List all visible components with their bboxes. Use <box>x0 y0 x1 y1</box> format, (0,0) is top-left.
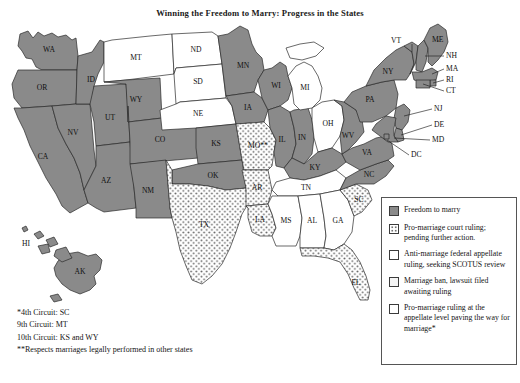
state-label-IL: IL <box>278 135 286 144</box>
legend-item-marriage-ban-lawsuit: Marriage ban, lawsuit filed awaiting rul… <box>389 276 510 296</box>
state-label-RI: RI <box>446 75 454 84</box>
state-label-DE: DE <box>434 120 444 129</box>
state-ME <box>424 24 448 66</box>
state-label-NH: NH <box>446 51 457 60</box>
legend-label: Pro-marriage ruling at the appellate lev… <box>404 303 510 334</box>
legend-swatch-gray-icon <box>389 206 399 216</box>
footnote-line-4: **Respects marriages legally performed i… <box>17 344 317 356</box>
state-label-DC: DC <box>411 150 422 159</box>
state-label-HI: HI <box>22 239 30 248</box>
state-FL <box>300 244 370 300</box>
state-label-NV: NV <box>68 128 79 137</box>
state-label-NE: NE <box>193 109 203 118</box>
state-DC <box>384 134 389 139</box>
legend-item-pro-marriage-pending: Pro-marriage court ruling; pending furth… <box>389 223 510 243</box>
state-label-WY: WY <box>130 95 143 104</box>
map-legend: Freedom to marry Pro-marriage court ruli… <box>381 197 517 365</box>
state-AK-island <box>38 244 50 254</box>
legend-swatch-white-icon <box>389 304 399 314</box>
state-label-KS: KS <box>211 139 221 148</box>
state-NJ <box>394 104 410 130</box>
state-label-CO: CO <box>155 135 166 144</box>
legend-item-anti-marriage-scotus: Anti-marriage federal appellate ruling, … <box>389 249 510 269</box>
state-label-VT: VT <box>391 36 401 45</box>
state-label-AK: AK <box>75 267 86 276</box>
state-label-GA: GA <box>333 216 344 225</box>
state-label-AZ: AZ <box>101 176 111 185</box>
state-AK <box>50 252 102 302</box>
footnote-line-2: 9th Circuit: MT <box>17 319 317 331</box>
state-label-OH: OH <box>323 119 334 128</box>
state-label-MD: MD <box>432 135 445 144</box>
state-label-AR: AR <box>252 183 263 192</box>
state-label-MI: MI <box>300 83 310 92</box>
state-label-MS: MS <box>281 216 292 225</box>
state-label-KY: KY <box>310 163 321 172</box>
state-label-MT: MT <box>130 53 142 62</box>
legend-label: Pro-marriage court ruling; pending furth… <box>404 223 510 243</box>
state-label-OK: OK <box>208 171 219 180</box>
legend-swatch-white-icon <box>389 250 399 260</box>
state-label-FL: FL <box>352 278 361 287</box>
footnotes: *4th Circuit: SC 9th Circuit: MT 10th Ci… <box>17 307 317 357</box>
legend-label: Marriage ban, lawsuit filed awaiting rul… <box>404 276 510 296</box>
leader-DE <box>401 125 432 135</box>
legend-label: Freedom to marry <box>404 205 460 215</box>
state-label-NC: NC <box>364 170 375 179</box>
legend-item-freedom-to-marry: Freedom to marry <box>389 205 510 216</box>
state-label-IA: IA <box>244 103 253 112</box>
state-label-NJ: NJ <box>434 104 442 113</box>
state-label-AL: AL <box>307 216 317 225</box>
page-title: Winning the Freedom to Marry: Progress i… <box>0 8 520 18</box>
state-label-NY: NY <box>383 67 394 76</box>
state-label-SC: SC <box>354 195 363 204</box>
state-label-LA: LA <box>255 215 266 224</box>
state-label-VA: VA <box>362 148 373 157</box>
state-label-NM: NM <box>142 186 154 195</box>
state-label-CT: CT <box>446 86 456 95</box>
state-label-WA: WA <box>43 45 55 54</box>
state-label-WV: WV <box>342 131 355 140</box>
state-label-SD: SD <box>193 77 203 86</box>
state-label-MA: MA <box>446 64 459 73</box>
footnote-line-3: 10th Circuit: KS and WY <box>17 332 317 344</box>
state-label-OR: OR <box>37 83 48 92</box>
state-label-ME: ME <box>432 35 444 44</box>
state-label-MN: MN <box>237 61 250 70</box>
legend-label: Anti-marriage federal appellate ruling, … <box>404 249 510 269</box>
state-label-TX: TX <box>199 220 210 229</box>
state-label-IN: IN <box>298 133 307 142</box>
state-label-TN: TN <box>301 183 312 192</box>
state-label-UT: UT <box>105 113 115 122</box>
footnote-line-1: *4th Circuit: SC <box>17 307 317 319</box>
state-label-WI: WI <box>271 81 281 90</box>
state-MI <box>286 42 324 110</box>
state-label-ID: ID <box>87 75 96 84</box>
state-label-ND: ND <box>191 45 202 54</box>
state-label-MO: MO** <box>248 141 268 150</box>
state-label-PA: PA <box>365 95 375 104</box>
legend-item-pro-marriage-appellate: Pro-marriage ruling at the appellate lev… <box>389 303 510 334</box>
state-label-CA: CA <box>38 152 49 161</box>
legend-swatch-dotted-icon <box>389 224 399 234</box>
legend-swatch-light-icon <box>389 277 399 287</box>
